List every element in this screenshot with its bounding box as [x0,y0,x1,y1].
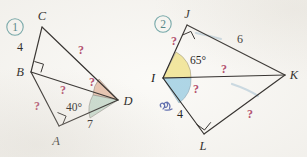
length-bc-label: 4 [17,40,23,54]
shaded-angle-jik [163,52,191,78]
vertex-label-k: K [289,68,299,82]
unknown-ik: ? [221,62,227,76]
unknown-angle-bdc: ? [89,75,95,89]
figure-2-number: 2 [155,16,171,32]
figure-2-group: 2 J I K L 6 4 65° ? ? ? ? [150,7,299,153]
figure-number-text: 1 [12,21,18,33]
geometry-figures-svg: 1 C B A D 4 7 40° ? ? ? ? [0,0,307,157]
vertex-label-a: A [51,134,60,148]
segment-cb [31,27,42,72]
unknown-ab: ? [34,99,40,113]
unknown-lk: ? [247,107,253,121]
unknown-bd: ? [60,83,66,97]
vertex-label-j: J [184,7,191,21]
unknown-angle-kil: ? [193,82,199,96]
vertex-label-d: D [122,94,132,108]
figure-number-text: 2 [160,18,166,30]
shaded-angle-kil [163,78,191,103]
length-il-label: 4 [177,107,183,121]
angle-jik-label: 65° [190,54,207,66]
unknown-ij: ? [171,34,177,48]
figure-1-number: 1 [7,19,23,35]
right-angle-at-l [197,122,211,130]
figure-page: 1 C B A D 4 7 40° ? ? ? ? [0,0,307,157]
vertex-label-b: B [16,65,24,79]
segment-jk [187,25,285,75]
unknown-cd: ? [78,43,84,57]
right-angle-at-a [58,113,67,125]
segment-lk [204,75,285,134]
right-angle-at-b [35,62,44,73]
figure-1-group: 1 C B A D 4 7 40° ? ? ? ? [7,9,133,148]
vertex-label-c: C [38,9,47,23]
segment-cd [42,27,118,100]
handwritten-mark [160,102,172,110]
scan-smudge-ik [232,84,258,96]
angle-bda-label: 40° [66,101,83,113]
length-ad-label: 7 [87,117,93,131]
length-jk-label: 6 [237,32,243,46]
vertex-label-l: L [199,139,207,153]
vertex-label-i: I [150,71,156,85]
